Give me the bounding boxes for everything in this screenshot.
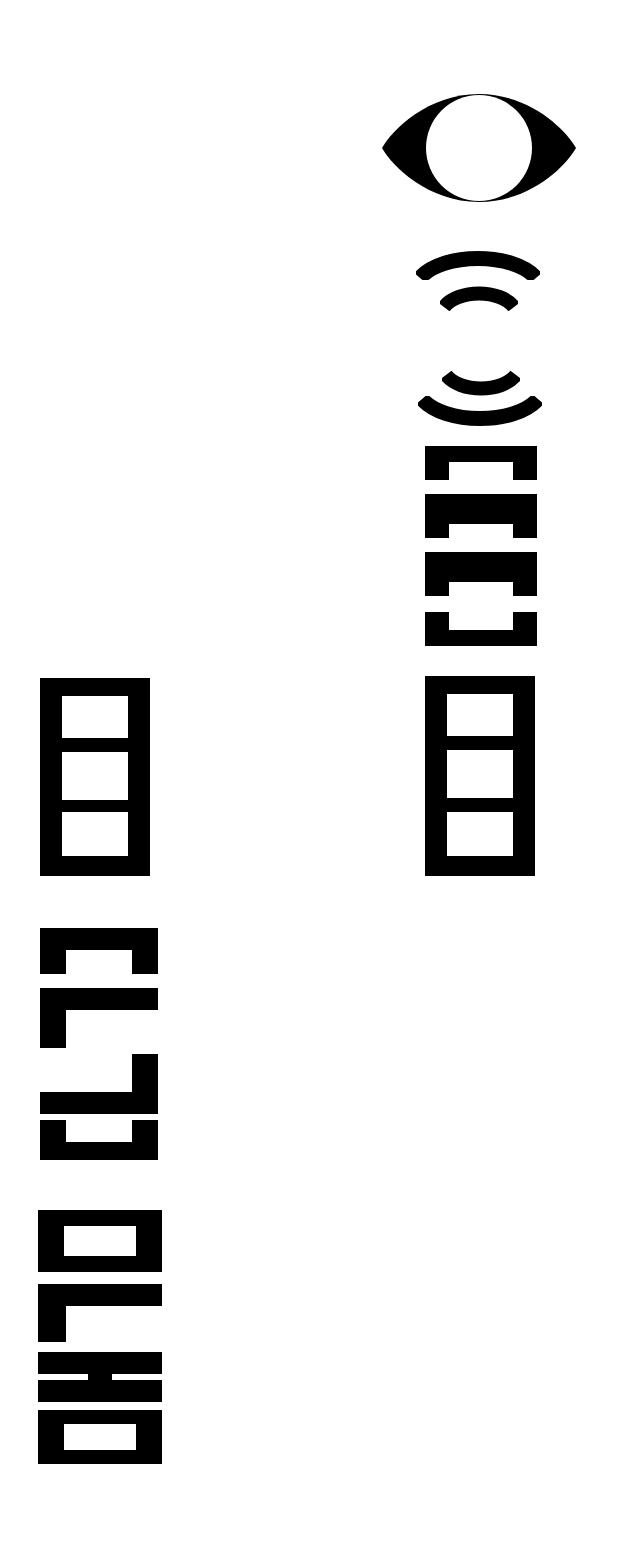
poster-canvas: OLHO OLHO eye eye sound waves Typographi…	[0, 0, 624, 1567]
word-meaning: eye	[0, 0, 1, 1]
page-title: OLHO	[0, 0, 1, 1]
page-description: Typographic poster: an eye pictogram abo…	[0, 0, 1, 1]
left-column-block	[40, 678, 150, 876]
wave-arc-upper-outer	[416, 246, 540, 280]
word-text: OLHO	[0, 0, 1, 1]
eye-label: eye	[0, 0, 1, 1]
right-column-block	[425, 676, 535, 876]
wave-arc-lower-outer	[418, 396, 542, 430]
eye-icon	[380, 92, 578, 204]
right-column-brackets	[425, 446, 537, 646]
arcs-label: sound waves	[0, 0, 1, 1]
word-olho	[38, 1210, 162, 1464]
wave-arc-lower-inner	[442, 370, 520, 398]
wave-arc-upper-inner	[440, 283, 518, 311]
left-column-brackets	[40, 928, 158, 1160]
